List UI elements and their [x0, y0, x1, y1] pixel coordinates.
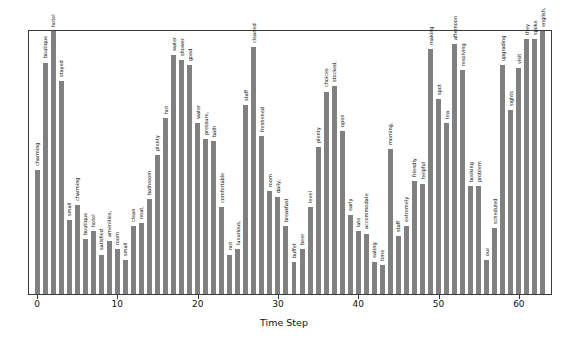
bar-label: satisfied — [99, 230, 104, 251]
bar: making — [428, 49, 433, 294]
bar: beer — [300, 249, 305, 294]
bar: plenty — [155, 155, 160, 294]
bar-label: eating — [372, 243, 377, 259]
bar: charming — [35, 170, 40, 294]
x-tick-label: 30 — [272, 299, 283, 309]
bar: comfortable — [219, 207, 224, 294]
bar-label: staff — [396, 221, 401, 232]
bar: upgrading — [500, 65, 505, 294]
x-tick-mark — [37, 295, 38, 299]
bar-label: freshened — [260, 107, 265, 132]
bar: water — [195, 123, 200, 294]
bar-label: clean — [131, 208, 136, 221]
bar: shower — [179, 60, 184, 294]
bar: charming — [75, 205, 80, 294]
bar: booking — [468, 186, 473, 294]
bar: small — [67, 220, 72, 294]
x-tick-label: 20 — [192, 299, 203, 309]
bar-label: booking — [469, 162, 474, 182]
bar: not — [227, 255, 232, 294]
x-tick-mark — [117, 295, 118, 299]
bar-label: tea — [445, 111, 450, 119]
bar-label: level — [308, 191, 313, 203]
bar: small — [123, 260, 128, 294]
bar-label: room — [115, 232, 120, 245]
x-tick-label: 0 — [34, 299, 40, 309]
bar: hotel — [51, 31, 56, 294]
bar: accommodate — [364, 234, 369, 294]
bar: eating — [372, 262, 377, 294]
x-tick-mark — [358, 295, 359, 299]
bar: pressure, — [203, 139, 208, 294]
bar-label: bath — [212, 126, 217, 137]
bar-label: charming — [75, 177, 80, 201]
bar: boutique — [43, 63, 48, 294]
bar: plenty — [316, 147, 321, 294]
bar: bath — [211, 141, 216, 294]
bar-label: boutique — [43, 36, 48, 58]
plot-area: charmingboutiquehotelstayedsmallcharming… — [28, 30, 552, 295]
bar-label: water — [171, 36, 176, 50]
bar: daily, — [275, 197, 280, 294]
bar: afternoon — [452, 44, 457, 294]
x-tick-label: 40 — [353, 299, 364, 309]
bar-label: early — [348, 199, 353, 212]
bar-label: scheduled — [493, 199, 498, 225]
bar: time — [380, 265, 385, 294]
bar: early — [348, 215, 353, 294]
bar-label: pressure, — [204, 112, 209, 135]
bar-label: they — [525, 24, 530, 35]
bar-label: friendly — [412, 158, 417, 177]
bar: clean — [131, 226, 136, 294]
bar-label: choices — [324, 69, 329, 88]
x-tick-mark — [198, 295, 199, 299]
bar-label: comfortable — [220, 173, 225, 203]
bar: staff — [243, 105, 248, 294]
bar: tea — [444, 123, 449, 294]
bar-label: daily, — [276, 179, 281, 193]
bar-label: late — [356, 217, 361, 226]
bar-label: good — [188, 49, 193, 62]
bar: choices — [324, 92, 329, 295]
bar: satisfied — [99, 255, 104, 294]
bar-label: afternoon — [453, 16, 458, 40]
bar-label: luxurious, — [236, 221, 241, 246]
bar-label: spot — [436, 85, 441, 96]
bar-label: hotel — [91, 214, 96, 227]
bar: neat, — [139, 223, 144, 294]
bar: water — [171, 55, 176, 294]
bar-label: making — [428, 27, 433, 46]
bar-label: room — [268, 174, 273, 187]
bar: spot — [436, 99, 441, 294]
bar: visit — [516, 68, 521, 294]
bar-label: our — [485, 248, 490, 256]
bar-label: water — [196, 105, 201, 119]
bar-label: charming — [35, 143, 40, 167]
bar: hot — [163, 118, 168, 294]
bar: morning, — [388, 149, 393, 294]
bar: freshened — [259, 136, 264, 294]
bar-label: buffet — [292, 244, 297, 259]
bar-label: open — [340, 114, 345, 127]
bar-label: helpful — [420, 162, 425, 179]
bar-label: boutique — [83, 213, 88, 235]
bar: staff — [396, 236, 401, 294]
bar: spoke — [532, 39, 537, 294]
bar-label: accommodate — [364, 194, 369, 230]
x-tick-label: 50 — [433, 299, 444, 309]
bar-label: problem — [477, 161, 482, 182]
bar: level — [308, 207, 313, 294]
bar-label: breakfast — [284, 198, 289, 222]
bar-label: time — [380, 250, 385, 261]
bar-label: plenty — [316, 127, 321, 143]
bar-label: not — [228, 242, 233, 250]
bar: boutique — [83, 239, 88, 294]
x-tick-label: 10 — [112, 299, 123, 309]
bar: they — [524, 39, 529, 294]
bar: cleaned — [251, 47, 256, 294]
bar: stayed — [59, 81, 64, 294]
bar: room — [267, 191, 272, 294]
bars-layer: charmingboutiquehotelstayedsmallcharming… — [29, 31, 551, 294]
bar-label: spoke — [533, 20, 538, 35]
x-tick-mark — [519, 295, 520, 299]
